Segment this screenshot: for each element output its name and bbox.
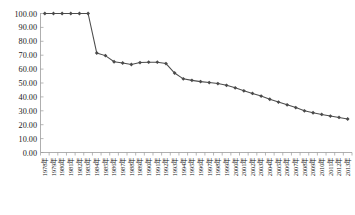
x-tick-label: 2009年	[308, 157, 317, 177]
y-tick-label: 10.00	[19, 135, 37, 144]
x-tick-label: 2010年	[317, 157, 326, 177]
x-tick-label: 2001年	[239, 157, 248, 177]
line-chart: 0.0010.0020.0030.0040.0050.0060.0070.008…	[0, 0, 355, 215]
x-axis-tick-labels: 1978年1979年1980年1981年1982年1983年1984年1985年…	[40, 157, 352, 177]
x-tick-label: 1990年	[144, 157, 153, 177]
y-axis-ticks	[41, 14, 44, 153]
data-point-marker	[69, 12, 73, 16]
data-point-marker	[328, 114, 332, 118]
y-axis-tick-labels: 0.0010.0020.0030.0040.0050.0060.0070.008…	[14, 10, 37, 158]
x-tick-label: 2002年	[248, 157, 257, 177]
x-tick-label: 1978年	[40, 157, 49, 177]
x-tick-label: 1986年	[109, 157, 118, 177]
data-point-marker	[190, 78, 194, 82]
x-tick-label: 2003年	[256, 157, 265, 177]
x-axis-ticks	[41, 153, 353, 156]
data-point-marker	[233, 86, 237, 90]
chart-container: 0.0010.0020.0030.0040.0050.0060.0070.008…	[0, 0, 355, 215]
x-tick-label: 2007年	[291, 157, 300, 177]
data-point-marker	[147, 60, 151, 64]
series-markers	[43, 12, 350, 121]
x-tick-label: 1997年	[205, 157, 214, 177]
data-point-marker	[251, 92, 255, 96]
x-tick-label: 2005年	[274, 157, 283, 177]
data-point-marker	[207, 81, 211, 85]
data-point-marker	[242, 89, 246, 93]
x-tick-label: 1984年	[92, 157, 101, 177]
data-point-marker	[259, 94, 263, 98]
data-point-marker	[277, 100, 281, 104]
data-point-marker	[52, 12, 56, 16]
x-tick-label: 1992年	[161, 157, 170, 177]
data-point-marker	[294, 106, 298, 110]
x-tick-label: 1994年	[179, 157, 188, 177]
y-tick-label: 0.00	[23, 149, 37, 158]
data-point-marker	[78, 12, 82, 16]
data-point-marker	[121, 61, 125, 65]
y-tick-label: 90.00	[19, 23, 37, 32]
data-point-marker	[43, 12, 47, 16]
x-tick-label: 2013年	[343, 157, 352, 177]
data-point-marker	[129, 63, 133, 67]
y-tick-label: 100.00	[14, 10, 37, 19]
data-point-marker	[268, 97, 272, 101]
chart-svg: 0.0010.0020.0030.0040.0050.0060.0070.008…	[0, 0, 355, 215]
data-point-marker	[155, 60, 159, 64]
data-point-marker	[138, 61, 142, 65]
x-tick-label: 1988年	[127, 157, 136, 177]
y-tick-label: 50.00	[19, 79, 37, 88]
y-tick-label: 40.00	[19, 93, 37, 102]
x-tick-label: 1980年	[57, 157, 66, 177]
data-point-marker	[303, 109, 307, 113]
x-tick-label: 1987年	[118, 157, 127, 177]
x-tick-label: 1982年	[75, 157, 84, 177]
data-point-marker	[199, 80, 203, 84]
x-tick-label: 1983年	[83, 157, 92, 177]
data-point-marker	[216, 82, 220, 86]
x-tick-label: 2000年	[230, 157, 239, 177]
x-tick-label: 2006年	[282, 157, 291, 177]
x-tick-label: 1995年	[187, 157, 196, 177]
x-tick-label: 1985年	[101, 157, 110, 177]
data-point-marker	[311, 111, 315, 115]
y-tick-label: 70.00	[19, 51, 37, 60]
y-tick-label: 80.00	[19, 37, 37, 46]
x-tick-label: 1989年	[135, 157, 144, 177]
data-point-marker	[225, 83, 229, 87]
y-tick-label: 30.00	[19, 107, 37, 116]
x-tick-label: 2012年	[334, 157, 343, 177]
x-tick-label: 1991年	[153, 157, 162, 177]
x-tick-label: 1998年	[213, 157, 222, 177]
data-point-marker	[95, 51, 99, 55]
x-tick-label: 1981年	[66, 157, 75, 177]
x-tick-label: 2011年	[326, 157, 335, 177]
data-point-marker	[337, 116, 341, 120]
x-tick-label: 1999年	[222, 157, 231, 177]
y-tick-label: 60.00	[19, 65, 37, 74]
x-tick-label: 1996年	[196, 157, 205, 177]
data-point-marker	[320, 113, 324, 117]
x-tick-label: 1993年	[170, 157, 179, 177]
data-point-marker	[60, 12, 64, 16]
y-tick-label: 20.00	[19, 121, 37, 130]
data-point-marker	[346, 117, 350, 121]
x-tick-label: 2004年	[265, 157, 274, 177]
data-point-marker	[86, 12, 90, 16]
x-tick-label: 2008年	[300, 157, 309, 177]
series-line-path	[45, 14, 348, 120]
data-point-marker	[285, 103, 289, 107]
x-tick-label: 1979年	[49, 157, 58, 177]
